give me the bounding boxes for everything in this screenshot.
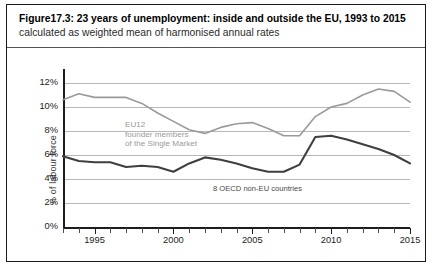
chart-area: % of labour force 12% 10% 8% 6% 4% 2% 0% xyxy=(7,69,425,262)
x-tick-2004 xyxy=(237,228,238,233)
figure-caption-bold: Figure17.3: 23 years of unemployment: in… xyxy=(19,13,406,24)
x-tick-2008 xyxy=(300,228,301,233)
series-svg xyxy=(63,83,410,227)
x-tick-2000 xyxy=(173,228,174,234)
x-tick-1996 xyxy=(110,228,111,233)
y-tick-label-6: 6% xyxy=(12,149,58,159)
x-tick-2014 xyxy=(394,228,395,233)
x-tick-2010 xyxy=(331,228,332,234)
x-tick-label-2010: 2010 xyxy=(321,235,342,245)
x-tick-2002 xyxy=(205,228,206,233)
line-eu12 xyxy=(63,89,410,136)
x-tick-2012 xyxy=(363,228,364,233)
x-tick-1993 xyxy=(63,228,64,233)
x-tick-1994 xyxy=(79,228,80,233)
y-tick-label-10: 10% xyxy=(12,101,58,111)
x-tick-2011 xyxy=(347,228,348,233)
plot-region: 12% 10% 8% 6% 4% 2% 0% 19952000200520102… xyxy=(63,83,410,227)
x-tick-2015 xyxy=(410,228,411,234)
x-tick-1995 xyxy=(95,228,96,234)
figure-screenshot: Figure17.3: 23 years of unemployment: in… xyxy=(0,0,434,275)
figure-caption-rest: calculated as weighted mean of harmonise… xyxy=(19,27,279,38)
x-tick-1998 xyxy=(142,228,143,233)
x-tick-label-2005: 2005 xyxy=(242,235,263,245)
y-tick-label-12: 12% xyxy=(12,77,58,87)
x-tick-2009 xyxy=(315,228,316,233)
page-bottom-text-sliver xyxy=(8,266,426,274)
annotation-eu12: EU12 founder members of the Single Marke… xyxy=(125,120,197,149)
x-tick-label-2000: 2000 xyxy=(163,235,184,245)
figure-caption: Figure17.3: 23 years of unemployment: in… xyxy=(7,5,425,48)
line-oecd-non-eu xyxy=(63,136,410,172)
x-tick-label-1995: 1995 xyxy=(84,235,105,245)
annotation-oecd: 8 OECD non-EU countries xyxy=(213,184,302,194)
x-tick-2013 xyxy=(378,228,379,233)
x-tick-2007 xyxy=(284,228,285,233)
x-tick-label-2015: 2015 xyxy=(400,235,421,245)
x-tick-2006 xyxy=(268,228,269,233)
y-tick-label-8: 8% xyxy=(12,125,58,135)
y-tick-label-0: 0% xyxy=(12,221,58,231)
y-tick-label-2: 2% xyxy=(12,197,58,207)
x-tick-2003 xyxy=(221,228,222,233)
x-tick-2005 xyxy=(252,228,253,234)
x-tick-2001 xyxy=(189,228,190,233)
x-tick-1997 xyxy=(126,228,127,233)
x-tick-1999 xyxy=(158,228,159,233)
y-tick-label-4: 4% xyxy=(12,173,58,183)
figure-container: Figure17.3: 23 years of unemployment: in… xyxy=(6,4,426,262)
